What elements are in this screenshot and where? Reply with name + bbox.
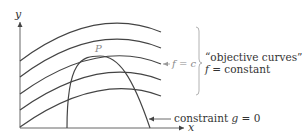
level-label: f = c [171, 58, 196, 69]
point-p-label: P [94, 43, 102, 54]
brace-icon [196, 27, 202, 95]
lagrange-diagram: y x P f = c “objective curves” f = const… [0, 0, 306, 140]
objective-curve-3 [20, 56, 161, 94]
objective-curves-label: “objective curves” [205, 51, 302, 63]
constraint-label: constraint g = 0 [174, 112, 260, 124]
objective-curve-4 [20, 72, 161, 110]
objective-curve-5 [20, 89, 161, 127]
objective-curves [20, 23, 161, 127]
constraint-curve [67, 56, 150, 128]
f-constant-label: f = constant [204, 63, 271, 75]
y-axis-label: y [14, 8, 22, 21]
